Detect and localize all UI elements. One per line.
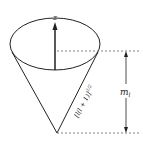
z-axis-label: z [52, 13, 58, 22]
cone-right-edge [57, 52, 98, 133]
projection-arrowhead-bottom-icon [124, 127, 128, 133]
z-arrowhead-icon [53, 22, 58, 30]
projection-arrowhead-top-icon [124, 51, 128, 57]
side-length-label: [l(l + 1)]1/2 [72, 83, 97, 118]
cone-diagram: z ml [l(l + 1)]1/2 [0, 0, 143, 144]
cone-left-edge [12, 52, 57, 133]
